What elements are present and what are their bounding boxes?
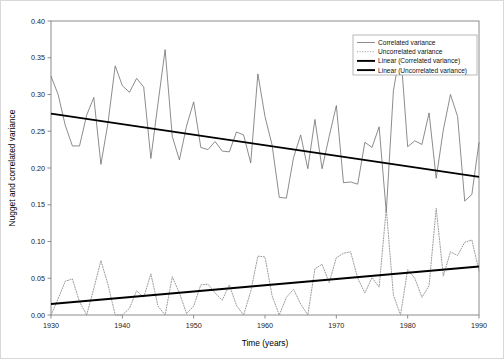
x-axis-tick-label: 1930 <box>43 321 59 330</box>
y-axis-tick-label: 0.25 <box>31 127 45 136</box>
y-axis-title: Nugget and correlated variance <box>7 109 17 226</box>
x-axis-tick-label: 1990 <box>471 321 487 330</box>
y-axis-tick-label: 0.40 <box>31 17 45 26</box>
y-axis-tick-label: 0.05 <box>31 274 45 283</box>
legend-label-0: Correlated variance <box>378 39 436 46</box>
legend-label-2: Linear (Correlated variance) <box>378 57 460 65</box>
y-axis-tick-label: 0.30 <box>31 90 45 99</box>
chart-canvas: 0.000.050.100.150.200.250.300.350.401930… <box>1 1 504 359</box>
chart-figure: 0.000.050.100.150.200.250.300.350.401930… <box>0 0 504 359</box>
legend-label-1: Uncorrelated variance <box>378 48 443 55</box>
x-axis-title: Time (years) <box>242 338 289 348</box>
x-axis-tick-label: 1950 <box>186 321 202 330</box>
y-axis-tick-label: 0.00 <box>31 311 45 320</box>
y-axis-tick-label: 0.20 <box>31 164 45 173</box>
y-axis-tick-label: 0.15 <box>31 200 45 209</box>
x-axis-tick-label: 1940 <box>114 321 130 330</box>
x-axis-tick-label: 1970 <box>328 321 344 330</box>
legend-label-3: Linear (Uncorrelated variance) <box>378 67 467 75</box>
x-axis-tick-label: 1980 <box>400 321 416 330</box>
x-axis-tick-label: 1960 <box>257 321 273 330</box>
y-axis-tick-label: 0.10 <box>31 237 45 246</box>
y-axis-tick-label: 0.35 <box>31 53 45 62</box>
